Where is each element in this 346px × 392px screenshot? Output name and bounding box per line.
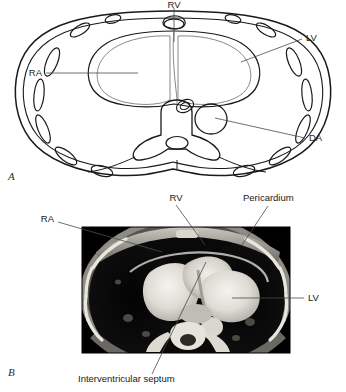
figure-container: RV LV RA DA A [0, 0, 346, 392]
label-da-a: DA [309, 132, 323, 143]
chest-wall-outline [15, 11, 330, 176]
label-septum-b: Interventricular septum [78, 373, 175, 384]
descending-aorta [195, 104, 227, 134]
panel-a-letter: A [8, 170, 15, 182]
panel-a-line-diagram: RV LV RA DA [0, 0, 346, 196]
label-rv-a: RV [167, 0, 181, 10]
ct-spinal-canal [180, 334, 196, 346]
left-ventricle-chamber [178, 36, 251, 105]
panel-b-ct-scan: RA RV Pericardium LV Interventricular se… [0, 186, 346, 392]
spinal-canal [166, 137, 188, 150]
label-rv-b: RV [169, 192, 183, 203]
label-pericardium-b: Pericardium [243, 192, 294, 203]
label-ra-a: RA [29, 67, 43, 78]
right-atrium-chamber [97, 36, 170, 105]
interventricular-septum-line [173, 31, 177, 105]
panel-b-letter: B [8, 366, 15, 378]
ct-image-field [80, 216, 292, 376]
ct-scan-figure: RA RV Pericardium LV Interventricular se… [0, 186, 346, 392]
thorax-cross-section-drawing: RV LV RA DA [0, 0, 346, 196]
label-lv-b: LV [308, 292, 320, 303]
label-lv-a: LV [306, 32, 318, 43]
paraspinal-line-right [219, 157, 266, 172]
label-ra-b: RA [41, 213, 55, 224]
ct-left-atrium [180, 304, 212, 324]
leader-da-a [215, 118, 305, 138]
